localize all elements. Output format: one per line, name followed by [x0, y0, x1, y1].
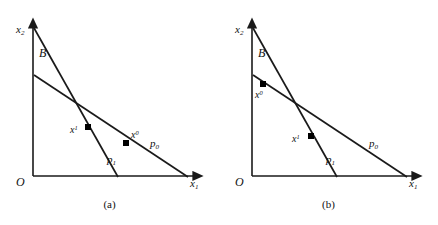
panel-b: x2 x1 O B p1 p0 x0 x1 (b)	[219, 0, 438, 225]
x-axis-label-b: x1	[409, 178, 417, 189]
bundle-marker-x1-b	[308, 133, 314, 139]
bundle-label-x0-b: x0	[255, 90, 263, 100]
panel-a-plot	[0, 0, 219, 225]
price-line-label-p0-a: p0	[150, 138, 159, 149]
panel-b-plot	[219, 0, 438, 225]
bundle-marker-x0-b	[260, 81, 266, 87]
budget-set-label-a: B	[39, 47, 46, 59]
y-axis-label-b: x2	[235, 24, 243, 35]
bundle-marker-x0-a	[123, 140, 129, 146]
budget-set-label-b: B	[258, 47, 265, 59]
bundle-marker-x1-a	[85, 124, 91, 130]
price-line-label-p1-a: p1	[107, 154, 116, 165]
origin-label-b: O	[235, 176, 244, 188]
price-line-label-p1-b: p1	[326, 154, 335, 165]
bundle-label-x1-b: x1	[292, 134, 300, 144]
bundle-label-x1-a: x1	[70, 125, 78, 135]
figure-container: x2 x1 O B p1 p0 x1 x0 (a) x2 x1 O B	[0, 0, 438, 225]
y-axis-label-a: x2	[16, 24, 24, 35]
panel-a: x2 x1 O B p1 p0 x1 x0 (a)	[0, 0, 219, 225]
origin-label-a: O	[16, 176, 25, 188]
price-line-label-p0-b: p0	[369, 138, 378, 149]
panel-caption-b: (b)	[219, 198, 438, 210]
x-axis-label-a: x1	[190, 178, 198, 189]
panel-caption-a: (a)	[0, 198, 219, 210]
bundle-label-x0-a: x0	[131, 130, 139, 140]
